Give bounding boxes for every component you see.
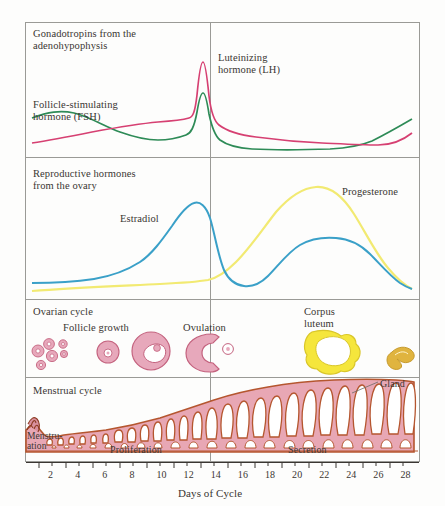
axis-tick-label: 2 — [48, 469, 53, 481]
primordial-follicle-cluster — [32, 339, 68, 370]
axis-tick-label: 24 — [346, 469, 356, 481]
axis-tick-label: 26 — [373, 469, 383, 481]
panel-1-heading: Gonadotropins from the adenohypophysis — [33, 28, 136, 52]
follicle-growth-label: Follicle growth — [63, 322, 129, 334]
axis-tick-label: 10 — [157, 469, 167, 481]
axis-tick-label: 22 — [319, 469, 329, 481]
axis-tick-label: 4 — [75, 469, 80, 481]
panel-3-heading: Ovarian cycle — [33, 306, 93, 318]
secretion-label: Secretion — [288, 444, 327, 456]
panel-2-heading: Reproductive hormones from the ovary — [33, 168, 136, 192]
axis-tick-label: 28 — [400, 469, 410, 481]
axis-tick-label: 6 — [102, 469, 107, 481]
axis-tick-label: 12 — [184, 469, 194, 481]
ovarian-cycle-icons — [32, 330, 414, 374]
proliferation-label: Proliferation — [110, 444, 162, 456]
ovulation-label: Ovulation — [183, 322, 226, 334]
x-axis — [26, 462, 419, 468]
primary-follicle — [97, 341, 119, 363]
axis-tick-label: 16 — [238, 469, 248, 481]
ovulating-follicle — [186, 334, 233, 372]
axis-tick-label: 18 — [265, 469, 275, 481]
corpus-albicans-icon — [387, 347, 414, 369]
gland-label: Gland — [380, 378, 405, 390]
axis-tick-label: 8 — [129, 469, 134, 481]
menstruation-label: Menstru- ation — [27, 432, 63, 452]
estradiol-label: Estradiol — [120, 213, 159, 225]
x-axis-title: Days of Cycle — [178, 487, 242, 500]
progesterone-curve — [32, 187, 412, 291]
panel-4-heading: Menstrual cycle — [33, 385, 102, 397]
ovarian-hormone-curves — [32, 187, 412, 291]
graafian-follicle — [132, 332, 170, 370]
progesterone-label: Progesterone — [342, 186, 398, 198]
corpus-luteum-icon — [305, 330, 361, 374]
fsh-label: Follicle-stimulating hormone (FSH) — [33, 99, 118, 123]
corpus-luteum-label: Corpus luteum — [304, 306, 335, 330]
axis-tick-label: 20 — [292, 469, 302, 481]
figure-root: Gonadotropins from the adenohypophysis L… — [0, 0, 445, 506]
axis-tick-label: 14 — [211, 469, 221, 481]
lh-label: Luteinizing hormone (LH) — [218, 52, 280, 76]
